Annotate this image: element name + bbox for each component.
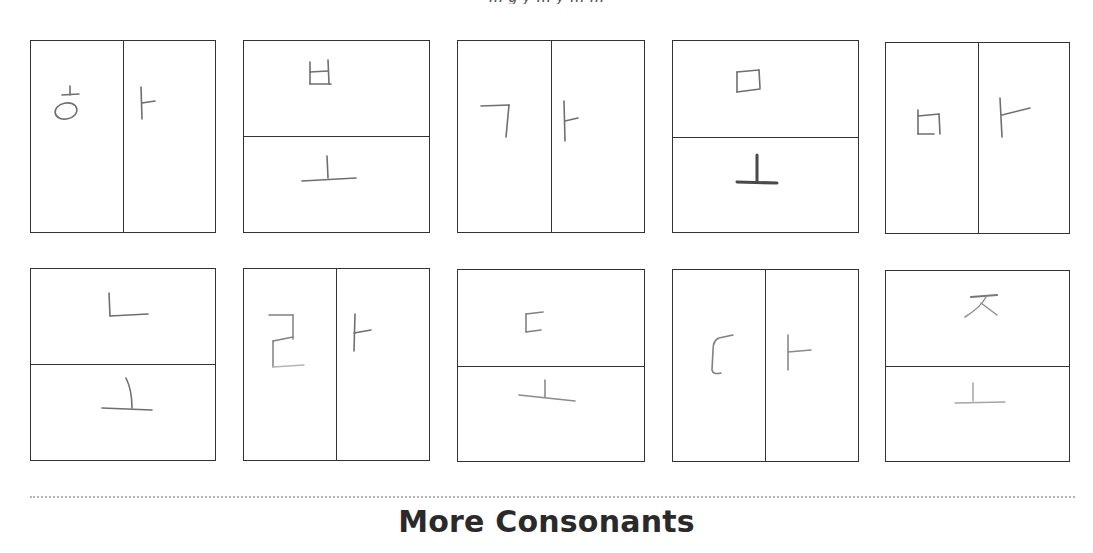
handwritten-a-vowel-glyph: [996, 93, 1046, 147]
cut-off-instruction-text: … g y … y … …: [0, 0, 1093, 4]
handwritten-bieup-glyph: [304, 56, 344, 100]
box-divider: [31, 364, 215, 365]
syllable-box-mo: [672, 40, 859, 233]
handwritten-digeut-glyph: [703, 330, 743, 394]
handwritten-mieum-glyph: [733, 66, 773, 110]
handwritten-a-vowel-glyph: [349, 309, 389, 363]
box-divider: [765, 270, 766, 461]
syllable-box-ra: [243, 268, 430, 461]
handwritten-rieul-glyph: [264, 309, 324, 373]
section-divider: [30, 496, 1075, 498]
box-divider: [673, 137, 858, 138]
syllable-box-bo: [243, 40, 430, 233]
box-divider: [886, 366, 1069, 367]
syllable-box-da: [672, 269, 859, 462]
box-divider: [458, 366, 644, 367]
syllable-box-no: [30, 268, 216, 461]
handwritten-giyeok-glyph: [478, 91, 528, 145]
handwritten-a-vowel-glyph: [558, 96, 593, 155]
syllable-box-do: [457, 269, 645, 462]
handwritten-hieut-glyph: [51, 71, 101, 135]
syllable-box-jo: [885, 270, 1070, 462]
syllable-box-ga: [457, 40, 645, 233]
box-divider: [978, 43, 979, 233]
handwritten-jieut-glyph: [961, 291, 1011, 335]
syllable-box-ma: [885, 42, 1070, 234]
handwritten-o-vowel-glyph: [294, 151, 364, 195]
box-divider: [244, 136, 429, 137]
box-divider: [123, 41, 124, 232]
section-heading: More Consonants: [0, 504, 1093, 539]
box-divider: [336, 269, 337, 460]
handwritten-o-vowel-glyph-bold: [733, 151, 803, 195]
handwritten-digeut-glyph: [523, 310, 563, 344]
handwritten-o-vowel-glyph: [96, 374, 156, 423]
handwritten-nieun-glyph: [106, 289, 156, 333]
syllable-box-ha: [30, 40, 216, 233]
handwritten-o-vowel-glyph: [513, 375, 583, 419]
handwritten-a-vowel-glyph: [783, 330, 823, 379]
handwritten-mieum-glyph: [914, 108, 954, 152]
handwritten-a-vowel-glyph: [133, 81, 163, 135]
handwritten-o-vowel-glyph: [951, 381, 1011, 415]
box-divider: [551, 41, 552, 232]
